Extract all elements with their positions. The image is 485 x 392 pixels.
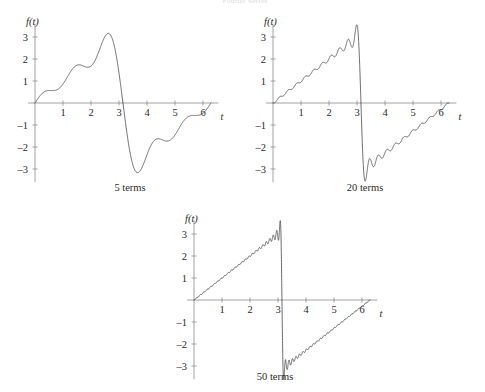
y-tick-label: –1 [255, 120, 267, 131]
x-tick-label: 4 [303, 304, 309, 315]
y-tick-label: –2 [255, 142, 267, 153]
y-tick-label: –3 [17, 164, 29, 175]
x-tick-label: 2 [326, 107, 331, 118]
y-tick-label: 1 [23, 76, 28, 87]
y-tick-label: –2 [17, 142, 29, 153]
y-tick-label: 2 [182, 251, 187, 262]
chart-panel-50-terms: 123456–3–2–1123f(t)t [167, 211, 399, 376]
y-axis-label: f(t) [264, 16, 277, 28]
x-axis-label: t [379, 308, 383, 319]
page-header-text: Fourier Series [190, 0, 300, 5]
y-axis-label: f(t) [185, 213, 198, 225]
x-tick-label: 3 [275, 304, 280, 315]
y-tick-label: 3 [23, 32, 28, 43]
x-tick-label: 5 [331, 304, 336, 315]
x-tick-label: 1 [219, 304, 224, 315]
chart-caption-5-terms: 5 terms [70, 182, 190, 194]
y-tick-label: –1 [176, 317, 188, 328]
x-tick-label: 4 [382, 107, 388, 118]
x-tick-label: 4 [144, 107, 150, 118]
x-tick-label: 5 [172, 107, 177, 118]
y-tick-label: –2 [176, 339, 188, 350]
y-tick-label: 1 [182, 273, 187, 284]
chart-caption-50-terms: 50 terms [215, 371, 335, 383]
chart-svg-fourier-5-terms: 123456–3–2–1123f(t)t [8, 14, 240, 179]
y-tick-label: 3 [182, 229, 187, 240]
x-tick-label: 1 [60, 107, 65, 118]
x-axis-label: t [458, 111, 462, 122]
figure-page: Fourier Series 123456–3–2–1123f(t)t 5 te… [0, 0, 485, 392]
y-tick-label: 3 [261, 32, 266, 43]
y-axis-label: f(t) [26, 16, 39, 28]
y-tick-label: –1 [17, 120, 29, 131]
y-tick-label: 1 [261, 76, 266, 87]
chart-svg-fourier-20-terms: 123456–3–2–1123f(t)t [246, 14, 478, 179]
chart-panel-20-terms: 123456–3–2–1123f(t)t [246, 14, 478, 179]
x-tick-label: 3 [354, 107, 359, 118]
y-tick-label: –3 [255, 164, 267, 175]
y-tick-label: 2 [261, 54, 266, 65]
y-tick-label: –3 [176, 361, 188, 372]
x-tick-label: 2 [88, 107, 93, 118]
x-tick-label: 1 [298, 107, 303, 118]
chart-caption-20-terms: 20 terms [305, 182, 425, 194]
x-tick-label: 6 [200, 107, 205, 118]
y-tick-label: 2 [23, 54, 28, 65]
chart-panel-5-terms: 123456–3–2–1123f(t)t [8, 14, 240, 179]
chart-svg-fourier-50-terms: 123456–3–2–1123f(t)t [167, 211, 399, 376]
x-axis-label: t [220, 111, 224, 122]
x-tick-label: 5 [410, 107, 415, 118]
x-tick-label: 3 [116, 107, 121, 118]
x-tick-label: 2 [247, 304, 252, 315]
